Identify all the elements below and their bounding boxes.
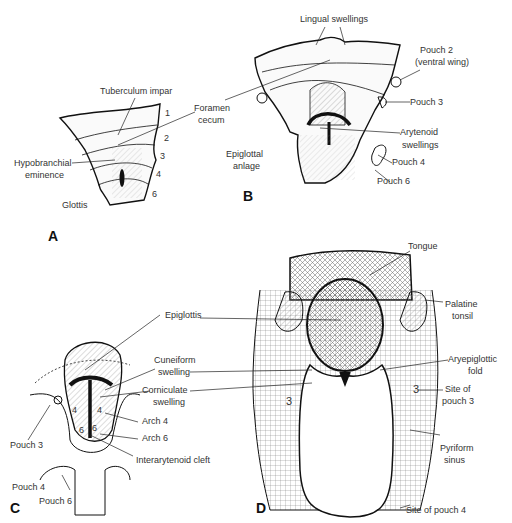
label-arch4: Arch 4 xyxy=(142,416,168,427)
label-aryepiglottic-line1: Aryepiglottic xyxy=(448,354,497,365)
panel-letter-b: B xyxy=(243,188,253,204)
arch-number-6: 6 xyxy=(152,189,157,199)
label-aryepiglottic-line2: fold xyxy=(468,366,483,377)
label-site-pouch3-line2: pouch 3 xyxy=(442,396,474,407)
arch-number-1: 1 xyxy=(165,108,170,118)
label-pouch6-c: Pouch 6 xyxy=(39,496,72,507)
illustration-canvas xyxy=(0,0,512,523)
label-corniculate-line2: swelling xyxy=(153,397,185,408)
label-pyriform-line1: Pyriform xyxy=(440,443,474,454)
arch-number-2: 2 xyxy=(164,133,169,143)
panel-d-drawing xyxy=(253,251,438,517)
label-pouch3-c: Pouch 3 xyxy=(10,440,43,451)
arch-number-3: 3 xyxy=(160,151,165,161)
label-epiglottis: Epiglottis xyxy=(165,310,202,321)
label-pouch2-line1: Pouch 2 xyxy=(420,45,453,56)
label-hypobranchial-line2: eminence xyxy=(25,170,64,181)
label-pouch4-c: Pouch 4 xyxy=(12,482,45,493)
label-palatine-line2: tonsil xyxy=(452,311,473,322)
arch-number-6-right: 6 xyxy=(92,423,97,433)
label-interarytenoid-cleft: Interarytenoid cleft xyxy=(136,455,210,466)
label-epiglottal-line1: Epiglottal xyxy=(226,149,263,160)
arch-number-3-right: 3 xyxy=(413,383,419,395)
label-arytenoid-line2: swellings xyxy=(402,140,439,151)
arch-number-4-left: 4 xyxy=(72,405,77,415)
label-glottis: Glottis xyxy=(62,200,88,211)
panel-c-drawing xyxy=(30,342,140,515)
label-site-pouch4: Site of pouch 4 xyxy=(406,505,466,516)
label-foramen-line2: cecum xyxy=(198,115,225,126)
panel-letter-a: A xyxy=(48,228,58,244)
label-cuneiform-line1: Cuneiform xyxy=(154,355,196,366)
panel-letter-d: D xyxy=(256,500,266,516)
label-arytenoid-line1: Arytenoid xyxy=(400,127,438,138)
label-pouch3-b: Pouch 3 xyxy=(410,97,443,108)
label-site-pouch3-line1: Site of xyxy=(445,384,471,395)
label-tuberculum-impar: Tuberculum impar xyxy=(100,86,172,97)
panel-a-drawing xyxy=(60,104,160,205)
label-pouch6-b: Pouch 6 xyxy=(377,176,410,187)
label-palatine-line1: Palatine xyxy=(445,299,478,310)
arch-number-4: 4 xyxy=(156,169,161,179)
label-tongue: Tongue xyxy=(408,241,438,252)
label-pyriform-line2: sinus xyxy=(444,455,465,466)
arch-number-4-right: 4 xyxy=(97,405,102,415)
label-hypobranchial-line1: Hypobranchial xyxy=(14,158,72,169)
arch-number-3-left: 3 xyxy=(286,395,292,407)
arch-number-6-left: 6 xyxy=(79,425,84,435)
label-corniculate-line1: Corniculate xyxy=(142,385,188,396)
label-arch6: Arch 6 xyxy=(142,433,168,444)
label-cuneiform-line2: swelling xyxy=(158,367,190,378)
label-pouch4-b: Pouch 4 xyxy=(392,157,425,168)
label-pouch2-line2: (ventral wing) xyxy=(415,57,469,68)
panel-letter-c: C xyxy=(10,500,20,516)
label-foramen-line1: Foramen xyxy=(194,103,230,114)
label-epiglottal-line2: anlage xyxy=(233,161,260,172)
panel-b-drawing xyxy=(255,37,401,183)
label-lingual-swellings: Lingual swellings xyxy=(300,14,368,25)
